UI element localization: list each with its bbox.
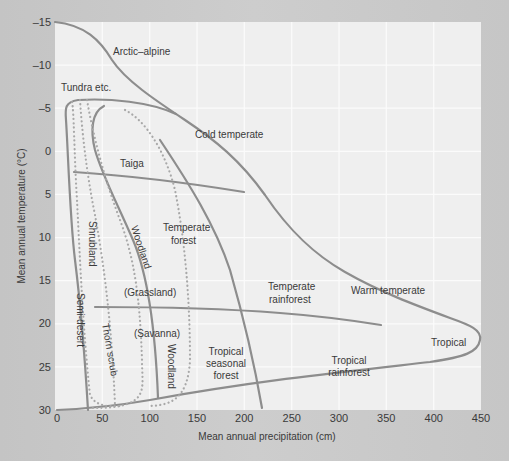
- label-semi-desert: Semi-desert: [75, 293, 86, 347]
- y-tick: 20: [39, 317, 51, 329]
- x-axis-title: Mean annual precipitation (cm): [198, 431, 335, 442]
- biome-diagram: Arctic–alpine Tundra etc. Cold temperate…: [0, 0, 509, 461]
- y-tick: –15: [33, 16, 51, 28]
- label-taiga: Taiga: [120, 158, 144, 169]
- label-temperate-forest-1: Temperate: [163, 222, 211, 233]
- y-axis-title: Mean annual temperature (°C): [16, 148, 27, 283]
- y-tick: 15: [39, 274, 51, 286]
- label-warm-temperate: Warm temperate: [351, 285, 426, 296]
- x-tick: 150: [188, 412, 206, 424]
- x-tick: 450: [472, 412, 490, 424]
- label-temperate-rainforest-2: rainforest: [269, 294, 311, 305]
- x-tick: 100: [141, 412, 159, 424]
- y-tick: –10: [33, 59, 51, 71]
- label-tropical-seasonal-2: seasonal: [206, 358, 246, 369]
- label-savanna: (Savanna): [134, 328, 180, 339]
- label-cold-temperate: Cold temperate: [195, 129, 264, 140]
- label-grassland: (Grassland): [124, 287, 176, 298]
- label-tropical-rainforest-1: Tropical: [331, 355, 366, 366]
- x-tick: 400: [425, 412, 443, 424]
- label-tropical-seasonal-1: Tropical: [208, 346, 243, 357]
- x-tick: 350: [377, 412, 395, 424]
- label-tundra: Tundra etc.: [61, 82, 111, 93]
- label-shrubland: Shrubland: [87, 221, 98, 267]
- y-tick: 0: [45, 145, 51, 157]
- label-tropical: Tropical: [431, 337, 466, 348]
- y-tick: 5: [45, 188, 51, 200]
- x-tick: 250: [283, 412, 301, 424]
- y-tick: 25: [39, 361, 51, 373]
- x-tick: 0: [54, 412, 60, 424]
- label-temperate-rainforest-1: Temperate: [268, 281, 316, 292]
- label-arctic-alpine: Arctic–alpine: [113, 46, 171, 57]
- y-tick: 30: [39, 404, 51, 416]
- label-temperate-forest-2: forest: [171, 235, 196, 246]
- y-tick: 10: [39, 231, 51, 243]
- label-tropical-rainforest-2: rainforest: [328, 367, 370, 378]
- x-tick: 200: [235, 412, 253, 424]
- label-tropical-seasonal-3: forest: [213, 370, 238, 381]
- x-tick: 50: [96, 412, 108, 424]
- y-tick: –5: [39, 102, 51, 114]
- x-tick: 300: [330, 412, 348, 424]
- label-woodland-tropical: Woodland: [166, 344, 177, 389]
